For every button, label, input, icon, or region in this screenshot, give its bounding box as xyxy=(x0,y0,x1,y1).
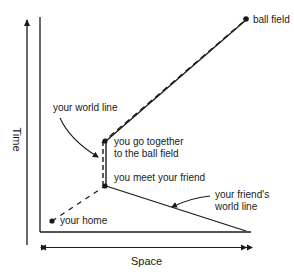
your-world-line-label: your world line xyxy=(53,102,117,113)
friends-world-line-label-line1: your friend's xyxy=(215,189,269,200)
friends-world-line-label-line2: world line xyxy=(215,201,257,212)
your-world-line-pointer xyxy=(60,118,98,157)
meet-dot xyxy=(102,183,107,188)
meet-friend-label: you meet your friend xyxy=(114,172,205,183)
ball-field-dot xyxy=(243,16,249,22)
ball-field-label: ball field xyxy=(253,14,290,25)
go-together-label-line1: you go together xyxy=(114,136,184,147)
your-home-label: your home xyxy=(60,215,107,226)
spacetime-diagram: Time Space ball field your world line yo… xyxy=(0,0,294,275)
home-dot xyxy=(49,218,54,223)
time-axis-label: Time xyxy=(11,126,22,154)
go-together-dot xyxy=(102,138,107,143)
space-axis-label: Space xyxy=(131,256,162,267)
go-together-label-line2: to the ball field xyxy=(114,148,179,159)
friends-world-line-pointer xyxy=(172,196,210,207)
